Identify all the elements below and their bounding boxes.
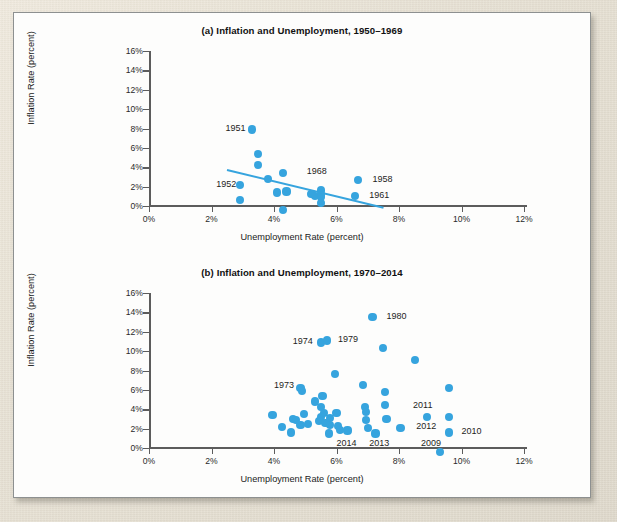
data-point [354,176,362,184]
x-axis-tick-label: 6% [317,214,357,224]
data-point-label: 2009 [421,438,441,448]
data-point [287,428,295,436]
y-axis-tick [143,409,149,410]
x-axis-tick [149,448,150,454]
x-axis-tick [337,206,338,212]
data-point [273,188,281,196]
x-axis-tick-label: 0% [129,214,169,224]
figure-card: (a) Inflation and Unemployment, 1950–196… [13,12,591,498]
page-background: (a) Inflation and Unemployment, 1950–196… [0,0,617,522]
x-axis-tick-label: 12% [504,456,544,466]
data-point [396,424,404,432]
x-axis-tick-label: 4% [254,456,294,466]
data-point [445,413,453,421]
y-axis-tick [143,70,149,71]
y-axis-tick-label: 4% [103,404,143,414]
y-axis-tick-label: 14% [103,65,143,75]
y-axis-tick [143,109,149,110]
data-point [318,392,326,400]
y-axis-tick-label: 8% [103,366,143,376]
chart-b-x-axis-label: Unemployment Rate (percent) [14,474,590,484]
y-axis-tick-label: 14% [103,307,143,317]
data-point [351,192,359,200]
data-point [436,448,444,456]
data-point [298,387,306,395]
x-axis-tick-label: 12% [504,214,544,224]
y-axis-tick [143,429,149,430]
data-point [381,388,389,396]
y-axis-tick-label: 12% [103,85,143,95]
y-axis-tick-label: 2% [103,424,143,434]
y-axis-tick-label: 6% [103,385,143,395]
data-point [382,415,390,423]
data-point-label: 1951 [226,123,246,133]
data-point [279,206,287,214]
x-axis-tick-label: 4% [254,214,294,224]
y-axis-tick [143,167,149,168]
x-axis-tick [212,206,213,212]
data-point [304,420,312,428]
x-axis-tick-label: 8% [379,456,419,466]
data-point-label: 2012 [416,421,436,431]
chart-b-plot-area: 1973197419791980201120122010200920132014 [149,293,524,448]
y-axis-tick-label: 0% [103,443,143,453]
data-point [254,161,262,169]
y-axis-tick [143,312,149,313]
data-point [264,175,272,183]
chart-a-plot-area: 19511952196819581961 [149,51,524,206]
chart-a-y-axis-label: Inflation Rate (percent) [26,3,36,153]
data-point-label: 1974 [293,336,313,346]
data-point [248,125,256,133]
chart-b-y-axis-label: Inflation Rate (percent) [26,245,36,395]
data-point [317,199,325,207]
data-point [268,411,276,419]
y-axis-tick [143,51,149,52]
y-axis-tick-label: 2% [103,182,143,192]
data-point-label: 2010 [462,426,482,436]
chart-a-title: (a) Inflation and Unemployment, 1950–196… [14,25,590,36]
y-axis-tick-label: 12% [103,327,143,337]
data-point [368,313,376,321]
y-axis-tick [143,332,149,333]
x-axis-tick [524,448,525,454]
chart-panel-a: (a) Inflation and Unemployment, 1950–196… [14,13,590,255]
data-point [282,187,290,195]
x-axis-tick-label: 10% [442,214,482,224]
y-axis-tick-label: 0% [103,201,143,211]
y-axis-tick [143,390,149,391]
data-point-label: 1979 [338,334,358,344]
chart-a-x-axis-label: Unemployment Rate (percent) [14,232,590,242]
chart-panel-b: (b) Inflation and Unemployment, 1970–201… [14,255,590,497]
x-axis-tick-label: 8% [379,214,419,224]
data-point [254,150,262,158]
data-point [381,401,389,409]
x-axis-tick-label: 2% [192,214,232,224]
x-axis-tick-label: 10% [442,456,482,466]
y-axis-tick [143,351,149,352]
data-point [279,169,287,177]
data-point [362,416,370,424]
x-axis-tick [337,448,338,454]
data-point-label: 1968 [307,166,327,176]
data-point-label: 2011 [413,400,432,410]
x-axis-tick [524,206,525,212]
data-point [332,409,340,417]
data-point [278,423,286,431]
y-axis-tick [143,90,149,91]
y-axis-tick-label: 8% [103,124,143,134]
data-point-label: 1980 [387,311,407,321]
x-axis-tick [399,448,400,454]
data-point [445,384,453,392]
x-axis-tick [212,448,213,454]
data-point-label: 1958 [372,174,392,184]
x-axis-tick [462,448,463,454]
data-point [236,181,244,189]
data-point [343,426,351,434]
data-point [371,429,379,437]
x-axis-tick-label: 0% [129,456,169,466]
y-axis-tick-label: 16% [103,288,143,298]
y-axis-tick [143,129,149,130]
trend-line [227,169,384,209]
data-point [445,428,453,436]
y-axis-tick-label: 4% [103,162,143,172]
